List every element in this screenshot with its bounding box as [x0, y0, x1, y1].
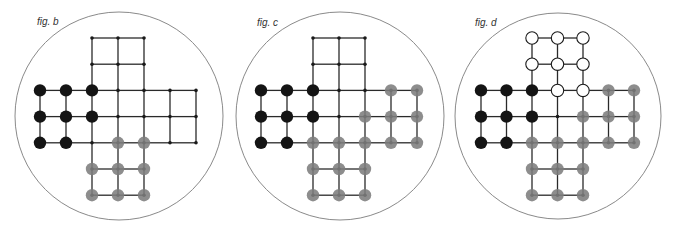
gray-peg [359, 110, 371, 122]
gray-peg [359, 163, 371, 175]
black-peg [475, 84, 487, 96]
grid-point [142, 62, 146, 66]
black-peg [307, 110, 319, 122]
grid-point [142, 89, 146, 93]
gray-peg [307, 137, 319, 149]
gray-peg [526, 163, 538, 175]
grid-point [194, 141, 198, 145]
gray-peg [411, 110, 423, 122]
gray-peg [628, 110, 640, 122]
black-peg [526, 110, 538, 122]
grid-point [311, 36, 315, 40]
grid-point [363, 62, 367, 66]
black-peg [500, 137, 512, 149]
figure-d: fig. d [455, 13, 661, 219]
grid-point [337, 62, 341, 66]
black-peg [307, 84, 319, 96]
gray-peg [526, 137, 538, 149]
gray-peg [411, 84, 423, 96]
figure-label: fig. d [475, 17, 497, 28]
figure-panel: fig. b fig. c fig. d [0, 0, 674, 234]
gray-peg [577, 189, 589, 201]
grid-point [90, 36, 94, 40]
grid-point [556, 115, 560, 119]
gray-peg [359, 189, 371, 201]
figure-label: fig. c [257, 17, 278, 28]
gray-peg [138, 189, 150, 201]
grid-point [90, 141, 94, 145]
black-peg [60, 137, 72, 149]
white-peg [577, 84, 589, 96]
black-peg [86, 84, 98, 96]
black-peg [281, 110, 293, 122]
black-peg [475, 137, 487, 149]
gray-peg [112, 189, 124, 201]
white-peg [526, 32, 538, 44]
grid-point [363, 89, 367, 93]
gray-peg [551, 137, 563, 149]
gray-peg [86, 163, 98, 175]
grid-point [194, 89, 198, 93]
gray-peg [307, 189, 319, 201]
black-peg [475, 110, 487, 122]
gray-peg [628, 137, 640, 149]
gray-peg [385, 110, 397, 122]
gray-peg [138, 163, 150, 175]
grid-point [194, 115, 198, 119]
gray-peg [602, 84, 614, 96]
black-peg [526, 84, 538, 96]
gray-peg [112, 163, 124, 175]
black-peg [500, 110, 512, 122]
white-peg [551, 32, 563, 44]
white-peg [526, 58, 538, 70]
black-peg [281, 84, 293, 96]
gray-peg [333, 189, 345, 201]
gray-peg [333, 163, 345, 175]
black-peg [281, 137, 293, 149]
gray-peg [551, 163, 563, 175]
grid-point [337, 36, 341, 40]
gray-peg [385, 84, 397, 96]
white-peg [551, 58, 563, 70]
black-peg [60, 84, 72, 96]
white-peg [551, 84, 563, 96]
gray-peg [333, 137, 345, 149]
gray-peg [112, 137, 124, 149]
black-peg [34, 110, 46, 122]
grid-point [116, 89, 120, 93]
gray-peg [577, 163, 589, 175]
figure-label: fig. b [37, 16, 59, 27]
black-peg [34, 84, 46, 96]
gray-peg [551, 189, 563, 201]
grid-point [168, 141, 172, 145]
black-peg [255, 137, 267, 149]
gray-peg [385, 137, 397, 149]
gray-peg [359, 137, 371, 149]
grid-point [90, 62, 94, 66]
figure-c: fig. c [236, 12, 444, 220]
black-peg [60, 110, 72, 122]
grid-point [337, 89, 341, 93]
gray-peg [86, 189, 98, 201]
gray-peg [307, 163, 319, 175]
gray-peg [526, 189, 538, 201]
white-peg [577, 58, 589, 70]
gray-peg [602, 137, 614, 149]
grid-point [116, 115, 120, 119]
grid-point [142, 36, 146, 40]
grid-point [168, 115, 172, 119]
gray-peg [577, 137, 589, 149]
grid-point [311, 62, 315, 66]
grid-point [337, 115, 341, 119]
black-peg [255, 110, 267, 122]
grid-point [168, 89, 172, 93]
gray-peg [411, 137, 423, 149]
grid-point [142, 115, 146, 119]
gray-peg [577, 110, 589, 122]
black-peg [255, 84, 267, 96]
black-peg [86, 110, 98, 122]
black-peg [500, 84, 512, 96]
grid-point [116, 36, 120, 40]
grid-point [116, 62, 120, 66]
gray-peg [628, 84, 640, 96]
